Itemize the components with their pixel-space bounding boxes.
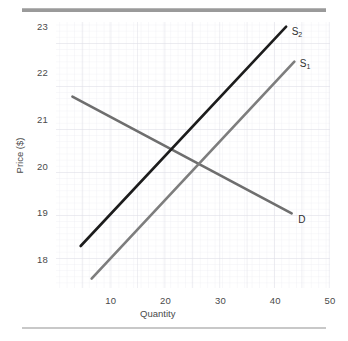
curve-label-s2: S2 [292,26,303,37]
curve-label-text: D [298,214,305,225]
x-tick-label: 20 [154,295,178,306]
plot-area: 181920212223 1020304050 DS1S2 Price ($) … [0,0,348,341]
curve-label-subscript: 1 [307,63,311,70]
x-tick-label: 10 [99,295,123,306]
supply-demand-figure: 181920212223 1020304050 DS1S2 Price ($) … [0,0,348,341]
y-tick-label: 18 [26,254,48,265]
y-tick-label: 21 [26,114,48,125]
chart-canvas [0,0,348,341]
curve-label-text: S [300,58,307,69]
x-tick-label: 40 [263,295,287,306]
y-axis-label: Price ($) [14,121,25,191]
major-gridlines [56,22,330,288]
y-tick-label: 20 [26,161,48,172]
y-tick-label: 23 [26,21,48,32]
x-tick-label: 30 [208,295,232,306]
curve-label-d: D [298,214,305,225]
x-tick-label: 50 [318,295,342,306]
curve-label-s1: S1 [300,58,311,69]
y-tick-label: 22 [26,67,48,78]
x-axis-label: Quantity [140,308,175,319]
y-tick-label: 19 [26,207,48,218]
curve-label-subscript: 2 [298,31,302,38]
